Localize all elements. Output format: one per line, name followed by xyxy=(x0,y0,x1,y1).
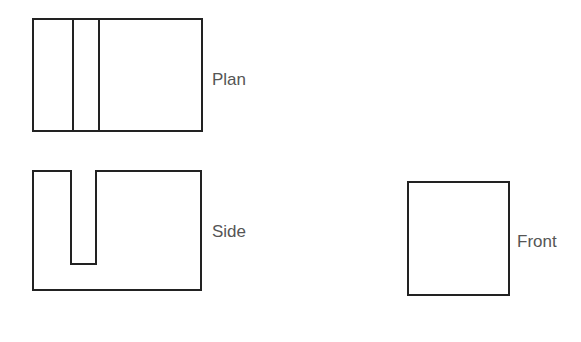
projection-drawing xyxy=(0,0,581,342)
front-label: Front xyxy=(517,233,557,250)
side-label: Side xyxy=(212,223,246,240)
plan-label: Plan xyxy=(212,71,246,88)
plan-outline xyxy=(33,19,202,131)
front-view xyxy=(408,182,509,295)
side-view xyxy=(33,171,201,290)
front-outline xyxy=(408,182,509,295)
plan-slot-strip xyxy=(73,19,99,131)
side-outline-with-slot xyxy=(33,171,201,290)
plan-view xyxy=(33,19,202,131)
